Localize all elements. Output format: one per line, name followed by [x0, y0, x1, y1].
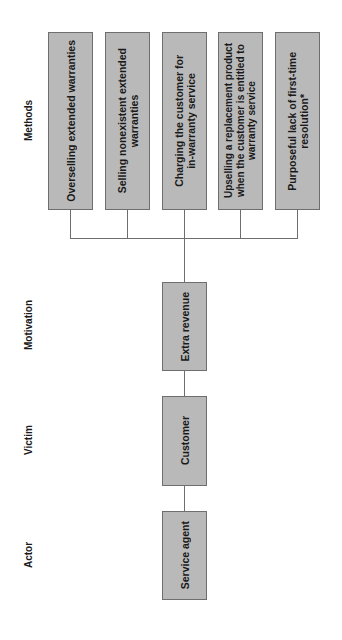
- method-box-charging-in-warranty: Charging the customer for in-warranty se…: [162, 32, 207, 210]
- connector-method-5: [297, 210, 298, 239]
- method-label: Charging the customer for in-warranty se…: [173, 55, 197, 187]
- method-box-overselling-warranties: Overselling extended warranties: [48, 32, 93, 210]
- connector-method-4: [240, 210, 241, 239]
- method-box-lack-of-first-time-resolution: Purposeful lack of first-time resolution…: [275, 32, 320, 210]
- connector-method-3: [184, 210, 185, 239]
- method-box-selling-nonexistent-warranties: Selling nonexistent extended warranties: [105, 32, 150, 210]
- victim-box-customer: Customer: [162, 396, 207, 486]
- row-label-motivation: Motivation: [23, 298, 34, 353]
- connector-motivation-to-victim: [184, 371, 185, 397]
- method-label: Upselling a replacement product when the…: [223, 43, 258, 198]
- connector-bus-to-motivation: [184, 238, 185, 283]
- method-label: Overselling extended warranties: [65, 40, 77, 202]
- method-box-upselling-replacement: Upselling a replacement product when the…: [218, 32, 263, 210]
- actor-box-service-agent: Service agent: [162, 511, 207, 600]
- connector-method-2: [127, 210, 128, 239]
- connector-method-1: [70, 210, 71, 239]
- row-label-methods: Methods: [23, 97, 34, 143]
- actor-label: Service agent: [179, 521, 191, 589]
- motivation-label: Extra revenue: [179, 292, 191, 361]
- connector-victim-to-actor: [184, 486, 185, 512]
- method-label: Purposeful lack of first-time resolution…: [286, 52, 310, 191]
- row-label-victim: Victim: [23, 424, 34, 457]
- motivation-box-extra-revenue: Extra revenue: [162, 282, 207, 371]
- row-label-actor: Actor: [23, 541, 34, 569]
- victim-label: Customer: [179, 416, 191, 465]
- method-label: Selling nonexistent extended warranties: [116, 48, 140, 193]
